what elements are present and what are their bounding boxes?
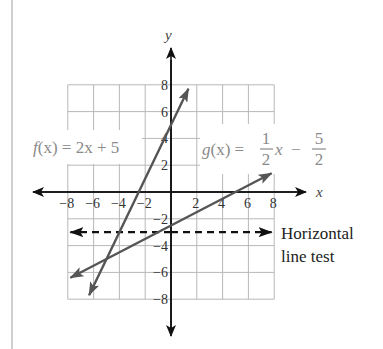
f-function-label: f(x) = 2x + 5 [33,138,119,157]
f-arg: (x) [38,138,58,157]
x-tick-label: −4 [111,196,126,211]
x-tick-label: 6 [244,196,251,211]
svg-text:−: − [291,140,301,159]
x-tick-labels: −8−6−4−22468 [59,196,276,211]
coordinate-plane: x y −8−6−4−22468 8642−2−4−6−8 f(x) = 2x … [0,0,383,349]
f-rest: = 2x + 5 [58,138,120,157]
y-tick-label: −8 [153,292,168,307]
y-tick-label: 8 [161,78,168,93]
x-axis-label: x [315,184,323,200]
g-line [171,173,272,225]
svg-text:x: x [274,140,283,159]
svg-text:2: 2 [262,150,271,169]
y-axis-label: y [163,27,172,43]
x-tick-label: 2 [192,196,199,211]
svg-text:g(x) =: g(x) = [202,140,244,159]
x-tick-label: −2 [137,196,152,211]
x-tick-label: −6 [85,196,100,211]
x-tick-label: 8 [270,196,277,211]
svg-text:2: 2 [315,150,324,169]
y-tick-label: −4 [153,239,168,254]
horizontal-line-test-label-line2: line test [281,247,335,266]
svg-text:5: 5 [315,129,324,148]
horizontal-line-test-label-line1: Horizontal [281,224,354,243]
y-tick-label: 2 [161,158,168,173]
svg-text:1: 1 [262,129,271,148]
y-tick-label: −6 [153,265,168,280]
x-tick-label: −8 [59,196,74,211]
y-tick-label: 6 [161,105,168,120]
y-tick-label: −2 [153,212,168,227]
